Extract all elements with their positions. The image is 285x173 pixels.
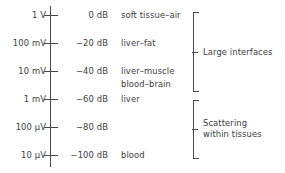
tissue-label-liver: liver [121, 95, 140, 104]
decibel-label-0: 0 dB [0, 11, 108, 20]
group-label-large-interfaces: Large interfaces [203, 47, 273, 58]
tissue-label-liver-muscle: liver–muscle [121, 67, 175, 76]
tissue-label-blood-brain: blood–brain [121, 80, 171, 89]
tissue-label-blood: blood [121, 151, 145, 160]
group-label-scattering-line1: Scattering [203, 118, 262, 129]
group-bracket-stem-scattering [192, 129, 198, 130]
group-label-scattering: Scattering within tissues [203, 118, 262, 140]
tissue-label-soft-tissue-air: soft tissue–air [121, 11, 181, 20]
group-label-large-interfaces-line1: Large interfaces [203, 47, 273, 57]
echo-amplitude-scale-figure: 1 V 100 mV 10 mV 1 mV 100 µV 10 µV 0 dB … [0, 0, 285, 173]
decibel-label-5: −100 dB [0, 151, 108, 160]
scale-axis-line [50, 6, 51, 167]
group-bracket-stem-large-interfaces [192, 52, 198, 53]
decibel-label-2: −40 dB [0, 67, 108, 76]
decibel-label-1: −20 dB [0, 39, 108, 48]
tissue-label-liver-fat: liver–fat [121, 39, 156, 48]
group-label-scattering-line2: within tissues [203, 129, 262, 140]
decibel-label-4: −80 dB [0, 123, 108, 132]
decibel-label-3: −60 dB [0, 95, 108, 104]
